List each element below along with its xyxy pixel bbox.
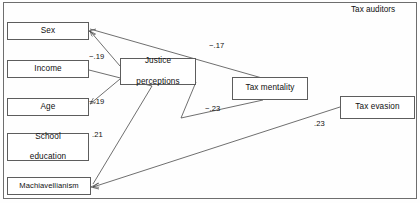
node-machiavellianism[interactable]: Machiavellianism: [7, 177, 91, 195]
node-sex[interactable]: Sex: [7, 22, 89, 40]
node-sex-label: Sex: [8, 26, 88, 36]
node-justice-perceptions-label: Justice perceptions: [121, 56, 195, 87]
node-justice-perceptions[interactable]: Justice perceptions: [120, 58, 196, 85]
node-justice-perceptions-line1: Justice: [121, 56, 195, 66]
node-tax-evasion[interactable]: Tax evasion: [340, 96, 415, 119]
node-justice-perceptions-line2: perceptions: [121, 77, 195, 87]
node-tax-mentality[interactable]: Tax mentality: [232, 77, 308, 100]
node-school-education-line2: education: [8, 152, 88, 162]
node-income[interactable]: Income: [7, 60, 89, 78]
node-tax-evasion-label: Tax evasion: [341, 102, 414, 112]
coefficient-justice-to-age: −.19: [89, 97, 104, 106]
node-age[interactable]: Age: [7, 98, 89, 116]
node-income-label: Income: [8, 64, 88, 74]
node-machiavellianism-label: Machiavellianism: [8, 181, 90, 190]
coefficient-tax-evasion-to-machiavellianism: .23: [314, 119, 325, 128]
coefficient-justice-to-sex: −.19: [89, 52, 104, 61]
node-age-label: Age: [8, 102, 88, 112]
node-school-education[interactable]: School education: [7, 133, 89, 161]
node-tax-mentality-label: Tax mentality: [233, 83, 307, 93]
diagram-canvas: Tax auditors Sex Income Age School educa…: [0, 0, 420, 203]
coefficient-sex-to-tax-mentality: −.17: [209, 41, 224, 50]
coefficient-machiavellianism-to-justice: .21: [92, 130, 103, 139]
node-school-education-label: School education: [8, 132, 88, 163]
node-school-education-line1: School: [8, 132, 88, 142]
figure-title: Tax auditors: [351, 5, 395, 14]
coefficient-justice-to-tax-mentality: −.23: [205, 104, 220, 113]
